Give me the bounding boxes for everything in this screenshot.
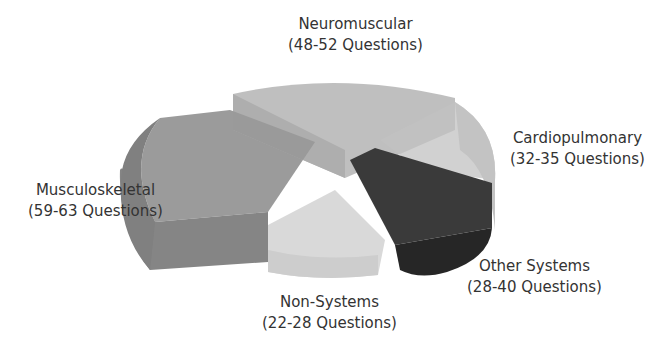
label-detail: (48-52 Questions) xyxy=(288,35,423,56)
label-musculoskeletal: Musculoskeletal (59-63 Questions) xyxy=(28,180,163,222)
label-detail: (59-63 Questions) xyxy=(28,201,163,222)
label-name: Neuromuscular xyxy=(288,14,423,35)
label-detail: (22-28 Questions) xyxy=(262,313,397,334)
label-name: Other Systems xyxy=(467,256,602,277)
slice-non-systems xyxy=(268,190,385,278)
label-non-systems: Non-Systems (22-28 Questions) xyxy=(262,292,397,334)
label-other-systems: Other Systems (28-40 Questions) xyxy=(467,256,602,298)
label-detail: (32-35 Questions) xyxy=(510,149,645,170)
label-name: Non-Systems xyxy=(262,292,397,313)
label-name: Cardiopulmonary xyxy=(510,128,645,149)
label-cardiopulmonary: Cardiopulmonary (32-35 Questions) xyxy=(510,128,645,170)
label-neuromuscular: Neuromuscular (48-52 Questions) xyxy=(288,14,423,56)
label-detail: (28-40 Questions) xyxy=(467,277,602,298)
label-name: Musculoskeletal xyxy=(28,180,163,201)
